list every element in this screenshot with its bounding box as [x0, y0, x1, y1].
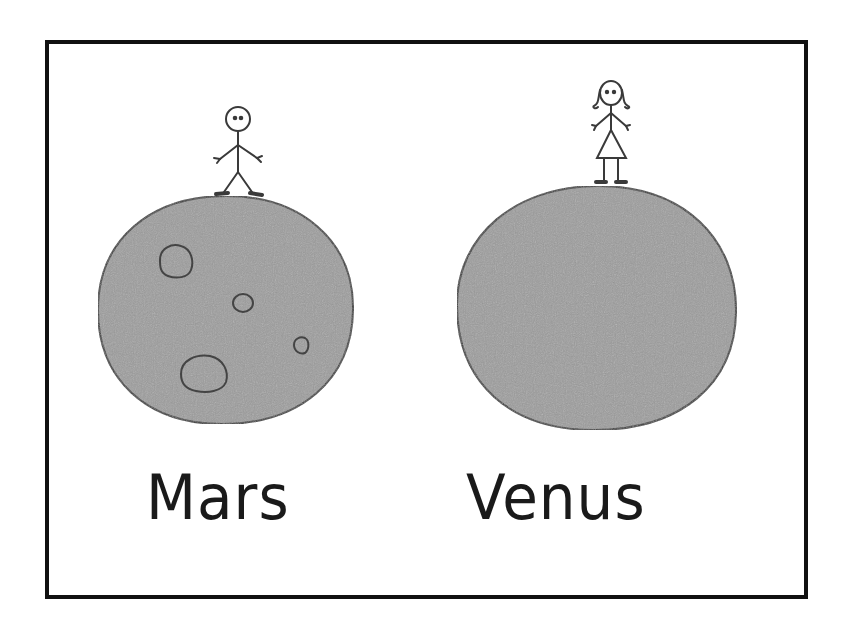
stick-woman-icon — [592, 81, 630, 182]
venus-planet — [457, 186, 736, 430]
mars-label: Mars — [146, 466, 290, 529]
mars-planet — [98, 196, 353, 424]
stick-man-icon — [214, 107, 262, 195]
illustration-scene — [0, 0, 851, 626]
venus-label: Venus — [466, 466, 646, 529]
